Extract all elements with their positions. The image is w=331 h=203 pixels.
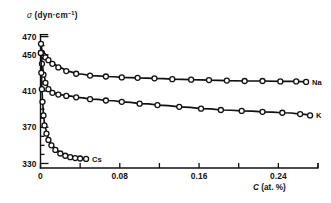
x-axis-tick-label: 0.08: [111, 171, 128, 181]
series-labels: NaKCs: [92, 78, 323, 164]
data-point-na: [135, 75, 140, 80]
data-point-cs: [46, 137, 51, 142]
data-point-cs: [68, 155, 73, 160]
series-line-k: [41, 53, 310, 116]
data-point-k: [74, 95, 79, 100]
data-point-k: [119, 99, 124, 104]
data-point-cs: [58, 151, 63, 156]
data-point-cs: [39, 87, 44, 92]
data-point-na: [88, 73, 93, 78]
data-point-cs: [40, 99, 45, 104]
data-point-cs: [39, 70, 44, 75]
data-point-na: [294, 79, 299, 84]
data-point-k: [43, 80, 48, 85]
series-label-na: Na: [312, 78, 322, 87]
data-point-na: [152, 76, 157, 81]
data-point-k: [218, 108, 223, 113]
data-point-cs: [63, 153, 68, 158]
x-axis-title: C (at. %): [253, 183, 286, 192]
y-axis-tick-label: 450: [22, 50, 37, 60]
data-point-k: [298, 112, 303, 117]
data-point-k: [137, 101, 142, 106]
data-point-k: [308, 113, 313, 118]
data-point-k: [260, 109, 265, 114]
data-point-cs: [78, 156, 83, 161]
y-axis-tick-label: 410: [22, 86, 37, 96]
data-point-na: [278, 79, 283, 84]
data-point-na: [206, 78, 211, 83]
data-point-cs: [53, 147, 58, 152]
data-point-k: [239, 108, 244, 113]
series-label-k: K: [316, 111, 322, 120]
y-axis-tick-labels: 330370410450470: [22, 32, 37, 169]
data-point-k: [155, 103, 160, 108]
data-point-na: [189, 77, 194, 82]
series-label-cs: Cs: [92, 155, 102, 164]
data-point-k: [64, 93, 69, 98]
data-point-na: [119, 75, 124, 80]
data-point-na: [242, 79, 247, 84]
data-point-k: [50, 90, 55, 95]
y-axis-title: σ (dyn·cm−1): [27, 10, 78, 20]
series-line-na: [41, 44, 306, 82]
data-point-cs: [38, 50, 43, 55]
axes: [41, 35, 319, 168]
data-point-na: [304, 79, 309, 84]
x-axis-tick-label: 0: [38, 171, 43, 181]
x-axis-tick-label: 0.24: [270, 171, 287, 181]
y-axis-tick-label: 370: [22, 122, 37, 132]
data-point-na: [64, 69, 69, 74]
data-point-cs: [44, 131, 49, 136]
data-point-cs: [42, 123, 47, 128]
data-point-k: [103, 98, 108, 103]
data-point-k: [199, 106, 204, 111]
data-point-cs: [84, 156, 89, 161]
x-axis-tick-label: 0.16: [191, 171, 208, 181]
y-axis-tick-label: 330: [22, 159, 37, 169]
data-point-cs: [41, 113, 46, 118]
data-series-group: [38, 41, 312, 161]
y-axis-tick-label: 470: [22, 32, 37, 42]
data-point-na: [103, 74, 108, 79]
data-point-na: [260, 79, 265, 84]
data-point-cs: [73, 156, 78, 161]
figure-container: σ (dyn·cm−1) 330370410450470 00.080.160.…: [0, 0, 331, 203]
data-point-cs: [49, 143, 54, 148]
data-point-k: [88, 97, 93, 102]
data-point-k: [177, 104, 182, 109]
data-point-na: [224, 78, 229, 83]
x-axis-tick-labels: 00.080.160.24: [38, 171, 287, 181]
data-point-k: [280, 110, 285, 115]
data-point-na: [170, 77, 175, 82]
surface-tension-vs-concentration-chart: σ (dyn·cm−1) 330370410450470 00.080.160.…: [0, 0, 331, 203]
data-point-na: [39, 41, 44, 46]
data-point-na: [50, 61, 55, 66]
data-point-na: [74, 71, 79, 76]
data-point-na: [56, 65, 61, 70]
data-point-k: [56, 92, 61, 97]
